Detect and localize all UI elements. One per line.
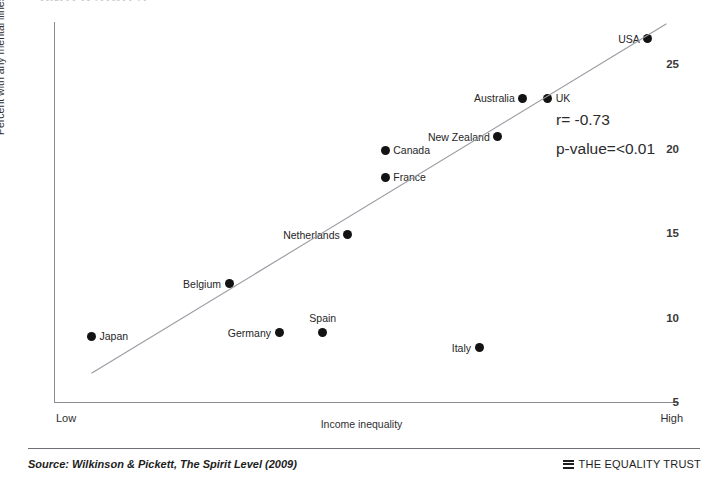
- data-label-netherlands: Netherlands: [283, 229, 340, 241]
- data-point-spain[interactable]: [318, 328, 327, 337]
- data-label-belgium: Belgium: [183, 278, 221, 290]
- data-point-japan[interactable]: [87, 332, 96, 341]
- y-axis-title: Percent with any mental illness: [0, 0, 6, 135]
- footer-source-text: Source: Wilkinson & Pickett, The Spirit …: [28, 458, 297, 470]
- y-axis-tick-label: 10: [635, 312, 679, 324]
- brand-name: THE EQUALITY TRUST: [579, 458, 701, 470]
- data-label-germany: Germany: [228, 327, 271, 339]
- scatter-chart-figure: UNITED STATES Percent with any mental il…: [0, 0, 709, 482]
- data-point-canada[interactable]: [381, 146, 390, 155]
- y-axis-tick-label: 25: [635, 58, 679, 70]
- data-point-new-zealand[interactable]: [493, 132, 502, 141]
- y-axis-tick-label: 15: [635, 227, 679, 239]
- plot-area: 252015105JapanBelgiumGermanySpainNetherl…: [54, 22, 679, 402]
- data-point-australia[interactable]: [518, 94, 527, 103]
- data-label-uk: UK: [556, 92, 571, 104]
- data-label-spain: Spain: [309, 312, 336, 324]
- footer-brand: THE EQUALITY TRUST: [563, 458, 701, 470]
- data-point-france[interactable]: [381, 173, 390, 182]
- data-label-france: France: [393, 171, 426, 183]
- data-label-new-zealand: New Zealand: [428, 131, 490, 143]
- data-point-usa[interactable]: [643, 34, 652, 43]
- data-point-netherlands[interactable]: [343, 230, 352, 239]
- data-point-italy[interactable]: [475, 343, 484, 352]
- data-point-uk[interactable]: [543, 94, 552, 103]
- data-label-usa: USA: [618, 33, 640, 45]
- data-point-belgium[interactable]: [225, 279, 234, 288]
- x-axis-line: [54, 402, 679, 403]
- x-axis-title: Income inequality: [0, 418, 709, 430]
- bars-logo-icon: [563, 460, 574, 469]
- footer-divider: [28, 448, 700, 449]
- x-axis-high-label: High: [660, 412, 683, 424]
- y-axis-tick-label: 5: [635, 396, 679, 408]
- clipped-heading-text: UNITED STATES: [40, 0, 147, 1]
- data-point-germany[interactable]: [275, 328, 284, 337]
- data-label-japan: Japan: [100, 330, 129, 342]
- correlation-value: r= -0.73: [556, 105, 655, 134]
- p-value: p-value=<0.01: [556, 134, 655, 163]
- data-label-canada: Canada: [393, 144, 430, 156]
- data-label-australia: Australia: [474, 92, 515, 104]
- statistics-annotation: r= -0.73 p-value=<0.01: [556, 105, 655, 164]
- data-label-italy: Italy: [452, 342, 471, 354]
